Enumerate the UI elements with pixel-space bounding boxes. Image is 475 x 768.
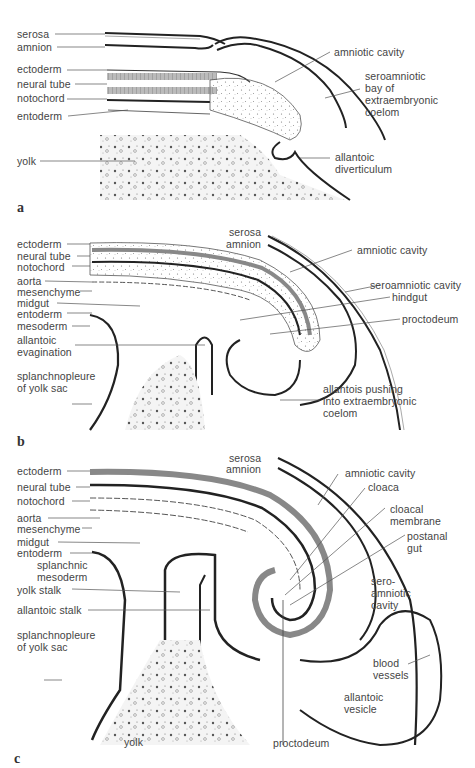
label-allantoic-evagination: allantoic evagination [17,334,72,358]
label-yolk-a: yolk [17,155,36,167]
label-hindgut-b: hindgut [392,291,427,303]
label-proctodeum-b: proctodeum [402,313,458,325]
label-amnion-b: amnion [226,238,261,250]
label-yolk-stalk: yolk stalk [17,584,61,596]
label-entoderm-c: entoderm [17,547,62,559]
label-notochord-c: notochord [17,495,65,507]
label-entoderm-a: entoderm [17,110,62,122]
label-serosa-a: serosa [17,28,49,40]
embryology-figure: serosa amnion ectoderm neural tube notoc… [0,0,475,768]
label-ectoderm-b: ectoderm [17,238,62,250]
label-ectoderm-c: ectoderm [17,465,62,477]
label-allantois-pushing: allantois pushing into extraembryonic co… [323,383,417,419]
label-yolk-c: yolk [124,736,143,748]
label-entoderm-b: entoderm [17,308,62,320]
panel-letter-b: b [17,434,25,450]
label-allantoic-stalk: allantoic stalk [17,604,82,616]
panel-letter-a: a [17,200,24,216]
label-neural-tube-c: neural tube [17,481,71,493]
label-mesoderm-b: mesoderm [17,320,67,332]
label-amniotic-cavity-a: amniotic cavity [334,46,404,58]
label-blood-vessels: blood vessels [373,657,409,681]
panel-letter-c: c [14,751,20,767]
label-allantoic-vesicle: allantoic vesicle [344,691,383,715]
label-splanchnic-mesoderm: splanchnic mesoderm [37,559,88,583]
label-splanchnopleure-c: splanchnopleure of yolk sac [17,629,96,653]
label-splanchnopleure-b: splanchnopleure of yolk sac [17,370,96,394]
label-notochord-a: notochord [17,92,65,104]
label-notochord-b: notochord [17,261,65,273]
label-ectoderm-a: ectoderm [17,63,62,75]
label-seroamniotic-cavity-b: seroamniotic cavity [370,279,461,291]
label-seroamniotic-bay: seroamniotic bay of extraembryonic coelo… [365,70,438,118]
label-serosa-b: serosa [229,226,261,238]
label-neural-tube-a: neural tube [17,78,71,90]
label-cloaca: cloaca [368,481,399,493]
label-mesenchyme-c: mesenchyme [17,523,80,535]
label-amniotic-cavity-c: amniotic cavity [345,467,415,479]
label-amnion-a: amnion [17,41,52,53]
label-postanal-gut: postanal gut [407,530,448,554]
label-allantoic-diverticulum: allantoic diverticulum [335,151,392,175]
label-sero-amniotic-cavity-c: sero- amniotic cavity [371,575,411,611]
label-amnion-c: amnion [226,463,261,475]
label-proctodeum-c: proctodeum [273,737,329,749]
label-cloacal-membrane: cloacal membrane [390,503,441,527]
label-amniotic-cavity-b: amniotic cavity [357,244,427,256]
